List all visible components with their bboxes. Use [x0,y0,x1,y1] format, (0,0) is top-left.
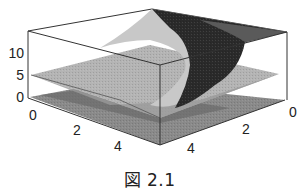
figure-3d-plot: 10 5 0 0 2 4 4 2 0 図 2.1 [0,0,299,193]
x-tick-4: 4 [114,138,122,154]
surface-plot: 10 5 0 0 2 4 4 2 0 [0,0,299,193]
x-tick-0: 0 [29,107,37,123]
z-tick-0: 0 [16,89,24,105]
figure-caption: 図 2.1 [0,166,299,191]
y-tick-2: 2 [242,121,250,137]
y-tick-4: 4 [187,140,195,156]
z-axis-ticks: 10 5 0 [8,45,24,105]
x-tick-2: 2 [73,122,81,138]
z-tick-5: 5 [16,67,24,83]
y-tick-0: 0 [289,104,297,120]
z-tick-10: 10 [8,45,24,61]
